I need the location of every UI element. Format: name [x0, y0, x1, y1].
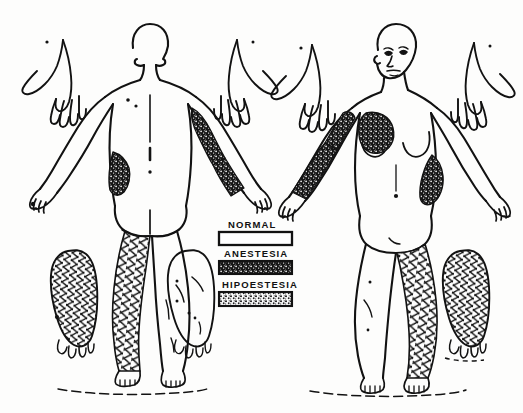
diagram-canvas: NORMAL ANESTESIA HIPOESTESIA [0, 0, 523, 413]
legend-swatch-normal[interactable] [219, 232, 292, 245]
lumbar-mark [148, 170, 151, 173]
legend-label-hipoestesia: HIPOESTESIA [222, 279, 298, 290]
legend-swatch-hipoestesia[interactable] [219, 292, 292, 306]
anterior-eye-left [385, 52, 392, 56]
scapula-mark-right [134, 104, 137, 107]
legend-swatch-anestesia[interactable] [219, 261, 292, 274]
scapula-mark-left [126, 98, 130, 102]
anterior-thigh-mark [369, 281, 372, 284]
posterior-hand-mark-left [31, 202, 35, 206]
legend-label-normal: NORMAL [228, 219, 276, 230]
region-right-breast-anterior[interactable] [359, 112, 394, 153]
anterior-shin-mark [367, 329, 370, 332]
sensory-legend: NORMAL ANESTESIA HIPOESTESIA [219, 219, 298, 306]
anterior-eye-right [400, 51, 407, 55]
legend-label-anestesia: ANESTESIA [224, 248, 288, 259]
anterior-mouth [387, 70, 400, 71]
anterior-navel [394, 194, 398, 198]
